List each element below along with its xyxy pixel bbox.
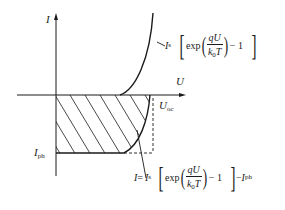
x-axis-arrow-icon (179, 93, 186, 97)
dark-curve-formula: Is [ exp ( qU k0T ) − 1 ] (165, 30, 257, 60)
x-axis-label: U (176, 76, 184, 87)
iph-label: Iph (34, 147, 45, 160)
illuminated-iv-curve (56, 95, 150, 153)
y-axis-arrow-icon (54, 13, 58, 20)
dark-iv-curve (120, 13, 153, 95)
hatched-power-region (0, 70, 190, 170)
dark-curve-leader (157, 42, 165, 46)
uoc-label: Uoc (159, 100, 174, 113)
y-axis-label: I (46, 14, 50, 25)
illuminated-curve-formula: I = Is [ exp ( qU k0T ) − 1 ] −Iph (134, 162, 252, 192)
